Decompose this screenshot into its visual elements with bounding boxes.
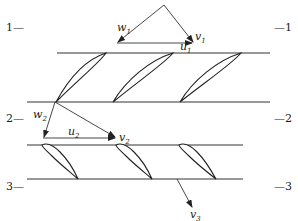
section-label-2-right: —2 [274, 112, 292, 125]
section-label-3-right: —3 [274, 180, 292, 193]
stator-blade [116, 144, 152, 179]
rotor-blades [56, 53, 241, 102]
stator-blade [42, 144, 78, 179]
v3-label: v3 [190, 208, 201, 221]
w1-label: w1 [117, 21, 131, 36]
rotor-blade [113, 53, 173, 102]
inlet-velocity-triangle: w1 v1 u1 [117, 5, 206, 55]
v1-vector [164, 5, 193, 42]
v2-vector [55, 102, 115, 137]
rotor-blade [56, 53, 106, 102]
turbine-stage-diagram: 1— 2— 3— —1 —2 —3 w1 v1 u1 w2 u2 v2 [0, 0, 298, 221]
section-label-1-right: —1 [274, 21, 292, 34]
outlet-velocity-triangle: w2 u2 v2 [33, 102, 130, 146]
section-label-2-left: 2— [6, 112, 24, 125]
v3-vector [177, 179, 192, 207]
stator-blade [179, 144, 216, 179]
section-label-1-left: 1— [6, 21, 24, 34]
rotor-blade [180, 53, 241, 102]
stator-blades [42, 144, 216, 179]
v1-label: v1 [195, 30, 206, 45]
exit-velocity: v3 [177, 179, 201, 221]
u2-label: u2 [68, 125, 80, 140]
u1-label: u1 [180, 40, 192, 55]
w2-label: w2 [33, 108, 47, 123]
section-label-3-left: 3— [6, 180, 24, 193]
